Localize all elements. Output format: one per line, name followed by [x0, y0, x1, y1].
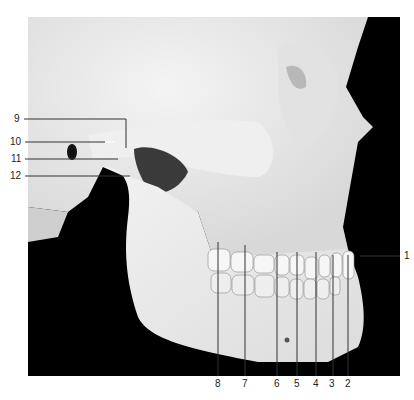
skull-photo — [28, 17, 400, 376]
label-9: 9 — [14, 114, 20, 124]
label-10: 10 — [10, 137, 21, 147]
label-5: 5 — [294, 379, 300, 389]
label-12: 12 — [10, 171, 21, 181]
label-8: 8 — [215, 379, 221, 389]
label-3: 3 — [329, 379, 335, 389]
label-7: 7 — [242, 379, 248, 389]
skull-illustration — [28, 17, 400, 376]
label-11: 11 — [11, 154, 21, 164]
label-2: 2 — [345, 379, 351, 389]
label-6: 6 — [274, 379, 280, 389]
label-1: 1 — [404, 251, 410, 261]
label-4: 4 — [313, 379, 319, 389]
